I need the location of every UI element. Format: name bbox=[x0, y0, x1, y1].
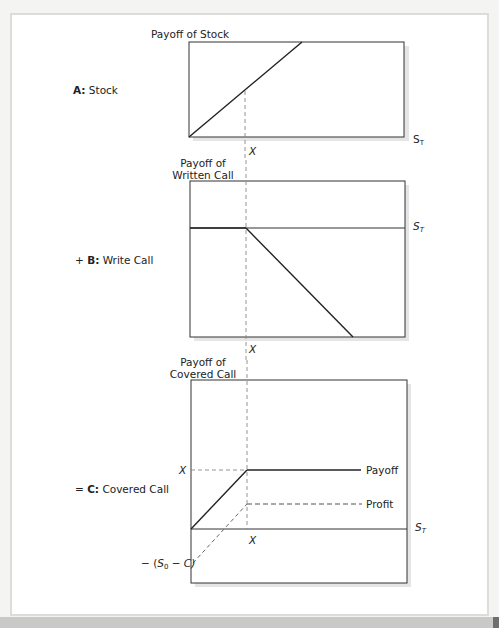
panel-c-covered-call: Payoff of Covered Call = C: Covered Call… bbox=[75, 356, 427, 587]
panel-c-x-axis-label: ST bbox=[415, 521, 427, 535]
panel-c-box bbox=[191, 380, 407, 583]
panel-a-name: Stock bbox=[86, 84, 119, 96]
panel-c-x-tick: X bbox=[248, 534, 257, 546]
panel-b-x-tick: X bbox=[248, 343, 257, 355]
payoff-label: Payoff bbox=[366, 464, 399, 476]
panel-b-x-axis-label: ST bbox=[413, 220, 425, 234]
panel-c-y-tick-x: X bbox=[178, 464, 187, 476]
panel-b-title-line1: Payoff of bbox=[180, 157, 226, 169]
panel-a-stock: Payoff of Stock A: Stock ST X bbox=[73, 28, 425, 157]
covered-call-diagram: Payoff of Stock A: Stock ST X Payoff of … bbox=[0, 0, 499, 628]
panel-b-write-call: Payoff of Written Call + B: Write Call S… bbox=[75, 157, 425, 355]
panel-b-box bbox=[190, 181, 405, 337]
panel-b-title-line2: Written Call bbox=[172, 169, 233, 181]
panel-a-label: A: Stock bbox=[73, 84, 119, 96]
panel-a-box bbox=[189, 42, 404, 137]
panel-c-label: = C: Covered Call bbox=[75, 483, 169, 495]
profit-label: Profit bbox=[366, 498, 393, 510]
panel-b-label: + B: Write Call bbox=[75, 254, 153, 266]
panel-a-letter: A: bbox=[73, 84, 86, 96]
panel-a-title: Payoff of Stock bbox=[151, 28, 230, 40]
panel-a-x-tick: X bbox=[248, 145, 257, 157]
panel-a-x-axis-label: ST bbox=[413, 133, 425, 147]
neg-s0-minus-c-label: − (S0 − C) bbox=[141, 557, 195, 571]
panel-c-title-line1: Payoff of bbox=[180, 356, 226, 368]
panel-c-title-line2: Covered Call bbox=[170, 368, 237, 380]
